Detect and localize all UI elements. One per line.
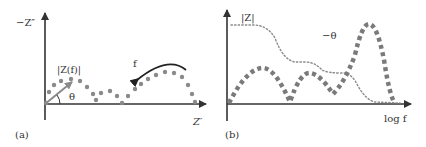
- frequency-label: f: [133, 58, 138, 69]
- bode-panel: |Z| −θ log f (b): [225, 10, 411, 140]
- impedance-diagram: −Z″ Z′ |Z(f)| θ f (a) |Z| −θ log f (b): [0, 0, 426, 147]
- nyquist-panel: −Z″ Z′ |Z(f)| θ f (a): [15, 13, 206, 140]
- magnitude-label: |Z|: [241, 12, 255, 24]
- magnitude-curve: [231, 25, 400, 103]
- x-axis-label: Z′: [192, 116, 203, 127]
- angle-arc: [57, 95, 60, 104]
- frequency-arrow: [137, 64, 186, 80]
- panel-a-caption: (a): [15, 129, 29, 140]
- panel-b-caption: (b): [225, 129, 239, 140]
- x-axis-label: log f: [384, 113, 408, 124]
- vector-label: |Z(f)|: [57, 64, 81, 76]
- y-axis-label: −Z″: [16, 17, 35, 28]
- phase-label: −θ: [322, 30, 336, 41]
- angle-label: θ: [69, 91, 75, 102]
